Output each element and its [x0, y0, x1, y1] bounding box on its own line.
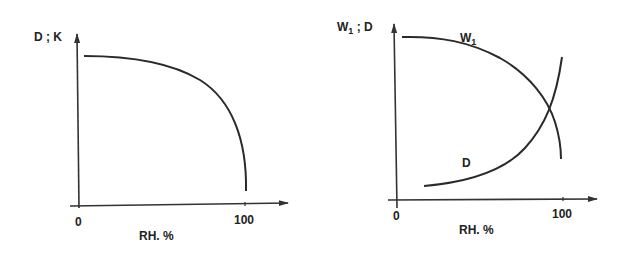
- right-tick-label-0: 0: [393, 209, 400, 223]
- left-tick-label-0: 0: [75, 215, 82, 229]
- right-curve-d: [424, 57, 562, 186]
- right-x-axis: [388, 199, 597, 200]
- right-curve-label-w1: W1: [460, 31, 476, 47]
- right-tick-label-100: 100: [552, 207, 572, 221]
- left-y-axis: [77, 34, 79, 208]
- right-y-axis-label: W1 ; D: [337, 20, 373, 36]
- right-y-axis: [394, 24, 397, 208]
- left-x-axis-label: RH. %: [139, 229, 174, 243]
- right-curve-w1: [402, 37, 561, 159]
- left-curve-dk: [84, 56, 246, 191]
- right-chart: W1 ; D W1 D 0 100 RH. %: [337, 20, 597, 237]
- left-chart: D ; K 0 100 RH. %: [34, 30, 288, 243]
- left-tick-label-100: 100: [234, 213, 254, 227]
- figure-canvas: D ; K 0 100 RH. % W1 ; D W1 D 0 100 RH. …: [0, 0, 621, 254]
- left-y-axis-label: D ; K: [34, 30, 62, 44]
- right-curve-label-d: D: [462, 156, 471, 170]
- left-x-axis: [70, 203, 288, 206]
- right-x-axis-label: RH. %: [459, 223, 494, 237]
